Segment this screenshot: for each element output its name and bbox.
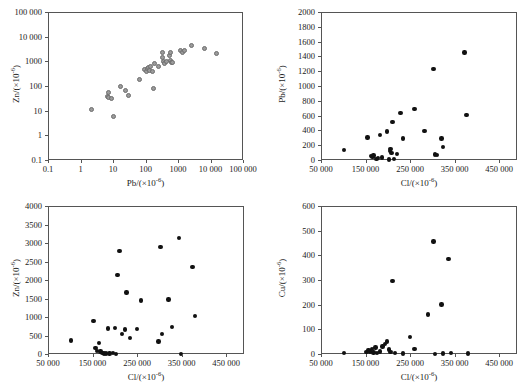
y-tick-mark xyxy=(45,37,48,38)
data-point xyxy=(177,236,181,240)
y-tick-mark xyxy=(45,111,48,112)
y-tick-mark xyxy=(318,101,321,102)
y-tick-label: 3500 xyxy=(0,221,42,230)
x-tick-mark xyxy=(499,160,500,163)
data-point xyxy=(390,120,394,124)
data-point xyxy=(109,96,114,101)
x-tick-label: 450 000 xyxy=(469,165,529,174)
data-point xyxy=(431,67,435,71)
data-point xyxy=(401,351,405,355)
x-tick-mark xyxy=(321,354,322,357)
y-tick-label: 2000 xyxy=(266,8,315,17)
y-tick-label: 10 xyxy=(0,107,42,116)
plot-area-zn-vs-cl xyxy=(48,206,244,354)
data-point xyxy=(214,51,219,56)
y-tick-mark xyxy=(45,225,48,226)
y-tick-label: 1000 xyxy=(266,82,315,91)
y-tick-label: 800 xyxy=(266,97,315,106)
y-tick-mark xyxy=(318,116,321,117)
x-tick-mark xyxy=(211,160,212,163)
data-point xyxy=(120,332,124,336)
data-point xyxy=(193,314,197,318)
data-point xyxy=(441,351,445,355)
x-tick-mark xyxy=(48,354,49,357)
panel-zn-vs-cl: 0500100015002000250030003500400050 00015… xyxy=(0,196,266,391)
y-tick-mark xyxy=(318,86,321,87)
y-tick-mark xyxy=(318,145,321,146)
y-tick-mark xyxy=(45,262,48,263)
x-tick-mark xyxy=(455,160,456,163)
data-point xyxy=(412,107,416,111)
x-tick-mark xyxy=(113,160,114,163)
x-axis-title: Cl/(×10-6) xyxy=(96,371,196,382)
y-tick-label: 1600 xyxy=(266,38,315,47)
data-point xyxy=(392,157,396,161)
data-point xyxy=(464,113,468,117)
x-tick-mark xyxy=(81,160,82,163)
data-point xyxy=(117,249,121,253)
x-tick-mark xyxy=(321,160,322,163)
figure-four-scatter-panels: 0.1110100100010 000100 0000.111010010001… xyxy=(0,0,532,391)
y-tick-label: 0 xyxy=(266,350,315,359)
y-tick-label: 3000 xyxy=(0,239,42,248)
y-tick-mark xyxy=(318,71,321,72)
y-tick-mark xyxy=(45,206,48,207)
y-tick-mark xyxy=(318,12,321,13)
panel-zn-vs-pb: 0.1110100100010 000100 0000.111010010001… xyxy=(0,0,266,196)
plot-area-cu-vs-cl xyxy=(321,206,517,354)
data-point xyxy=(385,129,389,133)
data-point xyxy=(170,325,174,329)
y-tick-mark xyxy=(318,42,321,43)
y-tick-label: 1000 xyxy=(0,313,42,322)
data-point xyxy=(393,351,397,355)
y-tick-mark xyxy=(45,61,48,62)
x-axis-title: Cl/(×10-6) xyxy=(369,371,469,382)
y-tick-mark xyxy=(45,299,48,300)
y-tick-label: 1500 xyxy=(0,295,42,304)
y-axis-title: Zn/(×10-6) xyxy=(10,44,21,124)
y-tick-label: 100 xyxy=(266,325,315,334)
data-point xyxy=(135,327,139,331)
y-tick-label: 10 000 xyxy=(0,33,42,42)
data-point xyxy=(435,153,439,157)
plot-area-zn-vs-pb xyxy=(48,12,243,160)
x-tick-mark xyxy=(146,160,147,163)
panel-cu-vs-cl: 010020030040050060050 000150 000250 0003… xyxy=(266,196,532,391)
data-point xyxy=(151,86,156,91)
data-point xyxy=(398,111,402,115)
x-tick-mark xyxy=(366,354,367,357)
x-tick-mark xyxy=(137,354,138,357)
data-point xyxy=(114,352,118,356)
data-point xyxy=(385,339,389,343)
x-tick-mark xyxy=(93,354,94,357)
data-point xyxy=(124,290,128,294)
y-tick-mark xyxy=(318,255,321,256)
y-tick-mark xyxy=(45,86,48,87)
data-point xyxy=(150,69,155,74)
data-point xyxy=(387,157,391,161)
y-axis-title: Zn/(×10-6) xyxy=(10,238,21,318)
data-point xyxy=(395,152,399,156)
x-tick-mark xyxy=(410,354,411,357)
data-point xyxy=(160,332,164,336)
x-tick-mark xyxy=(410,160,411,163)
data-point xyxy=(441,145,445,149)
data-point xyxy=(380,155,384,159)
data-point xyxy=(97,341,101,345)
data-point xyxy=(139,298,143,302)
data-point xyxy=(158,245,162,249)
y-tick-label: 300 xyxy=(266,276,315,285)
data-point xyxy=(446,257,450,261)
data-point xyxy=(462,50,466,54)
data-point xyxy=(433,352,437,356)
y-tick-label: 500 xyxy=(266,227,315,236)
y-tick-mark xyxy=(318,130,321,131)
y-tick-mark xyxy=(45,317,48,318)
y-tick-label: 600 xyxy=(266,202,315,211)
y-tick-label: 1800 xyxy=(266,23,315,32)
data-point xyxy=(401,136,405,140)
data-point xyxy=(342,148,346,152)
data-point xyxy=(126,93,131,98)
x-tick-mark xyxy=(455,354,456,357)
y-tick-label: 400 xyxy=(266,251,315,260)
